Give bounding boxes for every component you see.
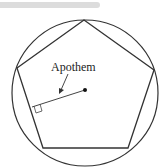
center-point [83,88,87,92]
label-arrow [61,74,68,90]
apothem-label: Apothem [51,60,96,74]
pentagon-diagram: Apothem [0,0,164,168]
circumscribed-circle [12,20,158,166]
